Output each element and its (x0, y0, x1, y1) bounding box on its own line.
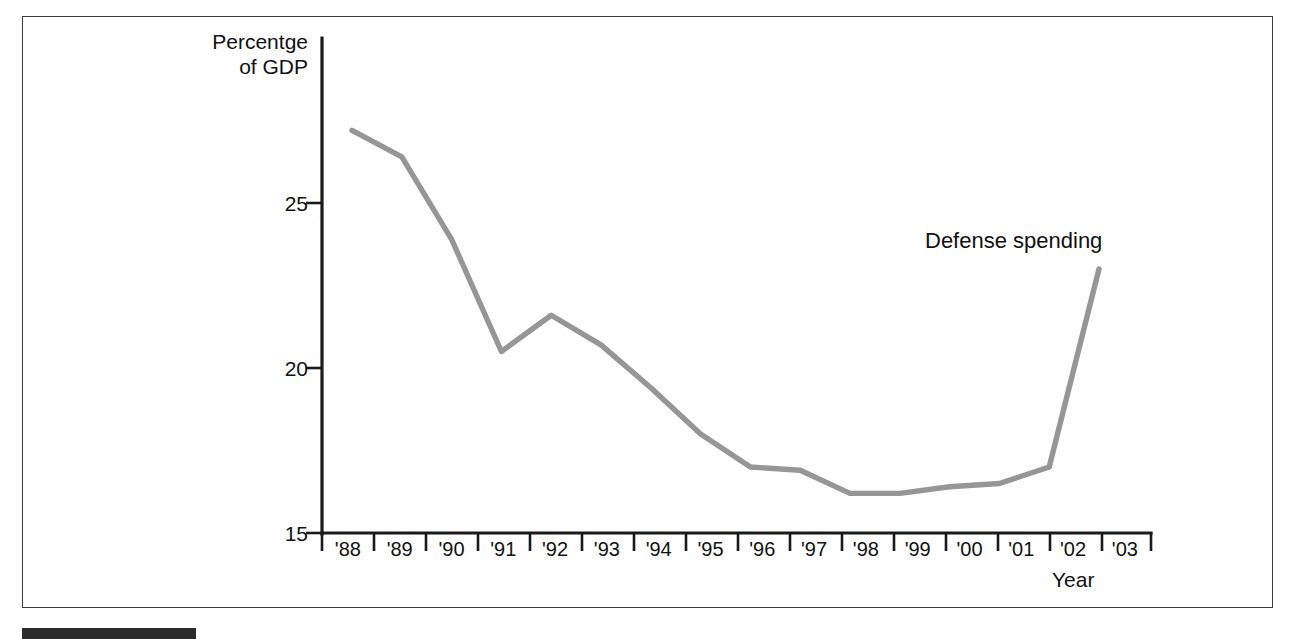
x-tick-label-95: '95 (685, 538, 737, 562)
x-tick-label-00: '00 (944, 538, 996, 562)
y-axis-title-line-1: Percentge (176, 30, 308, 55)
x-tick-label-98: '98 (840, 538, 892, 562)
y-axis-title: Percentge of GDP (176, 30, 308, 80)
y-tick-label-25: 25 (262, 192, 308, 217)
x-tick-label-01: '01 (995, 538, 1047, 562)
x-axis-title: Year (1052, 568, 1094, 593)
x-tick-label-96: '96 (736, 538, 788, 562)
figure-container: Percentge of GDP 25 20 15 '88'89'90'91'9… (0, 0, 1300, 639)
y-axis-title-line-2: of GDP (176, 55, 308, 80)
caption-source-bar (22, 628, 196, 639)
x-tick-label-99: '99 (892, 538, 944, 562)
series-line-defense-spending (352, 130, 1099, 493)
y-tick-label-15: 15 (262, 522, 308, 547)
x-tick-label-91: '91 (477, 538, 529, 562)
x-tick-label-02: '02 (1047, 538, 1099, 562)
x-tick-label-90: '90 (426, 538, 478, 562)
x-tick-label-93: '93 (581, 538, 633, 562)
x-tick-label-92: '92 (529, 538, 581, 562)
x-tick-label-97: '97 (788, 538, 840, 562)
x-tick-label-03: '03 (1099, 538, 1151, 562)
x-tick-label-89: '89 (374, 538, 426, 562)
series-annotation-defense-spending: Defense spending (925, 228, 1102, 254)
x-tick-label-88: '88 (322, 538, 374, 562)
y-tick-label-20: 20 (262, 357, 308, 382)
x-tick-label-94: '94 (633, 538, 685, 562)
